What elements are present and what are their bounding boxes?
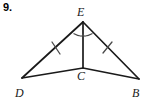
vertex-label-E: E [76, 5, 85, 19]
vertex-label-D: D [14, 86, 24, 100]
vertex-label-C: C [77, 69, 86, 83]
geometry-figure-container: 9. E C D B [0, 0, 156, 106]
geometry-diagram: E C D B [0, 0, 156, 106]
angle-arc-DEC [74, 34, 84, 37]
angle-arc-CEB [83, 34, 93, 37]
vertex-label-B: B [132, 86, 140, 100]
